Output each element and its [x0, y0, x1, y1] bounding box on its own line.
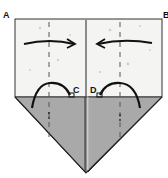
dot-left: [48, 112, 50, 114]
label-d: D: [90, 85, 97, 95]
dot-left-2: [48, 117, 50, 119]
dot-right: [119, 114, 121, 116]
label-b: B: [163, 10, 168, 20]
paper-upper: [15, 19, 162, 97]
label-c: C: [73, 85, 80, 95]
label-a: A: [3, 10, 10, 20]
origami-diagram: A B C D: [0, 0, 168, 178]
dot-right-2: [119, 119, 121, 121]
